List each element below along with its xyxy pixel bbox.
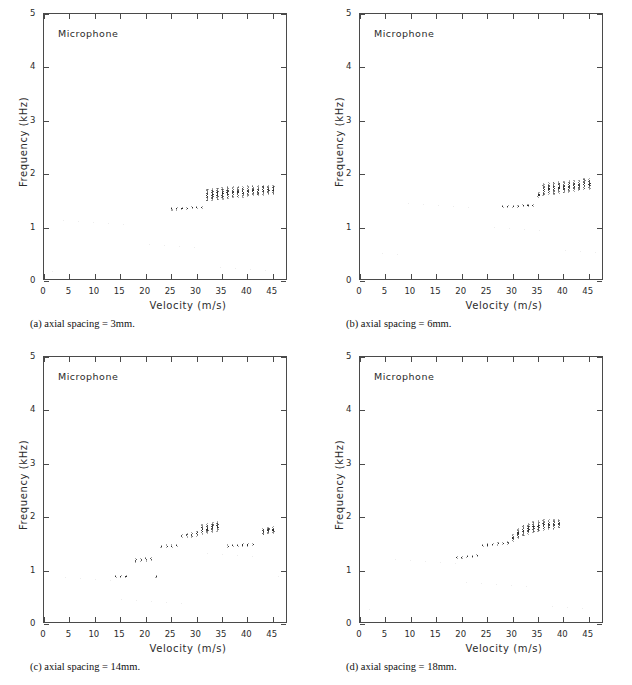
scan-speck xyxy=(166,602,167,603)
scan-speck xyxy=(194,247,195,248)
x-tick-b-45 xyxy=(589,14,590,19)
y-tick-b-0 xyxy=(597,281,602,282)
scan-speck xyxy=(494,227,495,228)
data-point xyxy=(528,534,529,535)
scan-speck xyxy=(151,601,152,602)
x-tick-label-a-20: 20 xyxy=(139,286,150,296)
data-point xyxy=(172,547,173,548)
y-tick-label-d-4: 4 xyxy=(346,404,351,414)
plot-area-c xyxy=(44,357,286,622)
x-tick-a-20 xyxy=(146,274,147,279)
panel-a: 051015202530354045012345Velocity (m/s)Fr… xyxy=(0,0,316,342)
x-tick-c-40 xyxy=(247,357,248,362)
x-tick-d-30 xyxy=(513,617,514,622)
data-point xyxy=(187,536,188,537)
data-point xyxy=(207,533,208,534)
y-tick-b-3 xyxy=(597,121,602,122)
x-tick-d-15 xyxy=(436,617,437,622)
scan-speck xyxy=(408,203,409,204)
x-tick-a-35 xyxy=(222,274,223,279)
figure-panel-grid: 051015202530354045012345Velocity (m/s)Fr… xyxy=(0,0,632,685)
x-tick-c-20 xyxy=(146,357,147,362)
x-tick-label-d-35: 35 xyxy=(531,629,542,639)
y-tick-label-d-0: 0 xyxy=(346,618,351,628)
y-tick-label-a-0: 0 xyxy=(30,275,35,285)
data-point xyxy=(533,206,534,207)
data-point xyxy=(222,199,223,200)
scan-speck xyxy=(181,603,182,604)
data-point xyxy=(513,541,514,542)
x-tick-label-d-25: 25 xyxy=(481,629,492,639)
x-tick-b-10 xyxy=(411,274,412,279)
x-tick-label-c-35: 35 xyxy=(215,629,226,639)
data-point xyxy=(120,577,121,578)
data-point xyxy=(182,537,183,538)
data-point xyxy=(247,196,248,197)
x-tick-label-c-40: 40 xyxy=(241,629,252,639)
x-tick-label-c-10: 10 xyxy=(88,629,99,639)
y-tick-a-1 xyxy=(44,228,49,229)
scan-speck xyxy=(80,578,81,579)
x-tick-label-a-25: 25 xyxy=(165,286,176,296)
scan-speck xyxy=(565,250,566,251)
data-point xyxy=(217,199,218,200)
y-tick-a-3 xyxy=(281,121,286,122)
x-tick-label-b-35: 35 xyxy=(531,286,542,296)
x-tick-d-5 xyxy=(385,357,386,362)
series-label-d: Microphone xyxy=(374,371,434,382)
y-tick-c-3 xyxy=(44,464,49,465)
plot-area-b xyxy=(360,14,602,279)
scan-speck xyxy=(526,586,527,587)
data-point xyxy=(497,544,498,545)
x-tick-label-a-15: 15 xyxy=(114,286,125,296)
data-point xyxy=(116,577,117,578)
scan-speck xyxy=(207,553,208,554)
y-tick-b-4 xyxy=(597,67,602,68)
y-tick-a-2 xyxy=(281,174,286,175)
scan-speck xyxy=(179,246,180,247)
data-point xyxy=(472,557,473,558)
plot-area-d xyxy=(360,357,602,622)
data-point xyxy=(543,530,544,531)
data-point xyxy=(507,544,508,545)
series-label-a: Microphone xyxy=(58,28,118,39)
x-tick-c-40 xyxy=(247,617,248,622)
data-point xyxy=(228,198,229,199)
x-tick-label-d-30: 30 xyxy=(506,629,517,639)
plot-area-a xyxy=(44,14,286,279)
scan-speck xyxy=(95,579,96,580)
y-tick-a-0 xyxy=(44,281,49,282)
data-point xyxy=(273,533,274,534)
scan-speck xyxy=(65,577,66,578)
data-point xyxy=(263,194,264,195)
data-point xyxy=(273,193,274,194)
x-tick-a-35 xyxy=(222,14,223,19)
x-tick-d-5 xyxy=(385,617,386,622)
scan-speck xyxy=(123,224,124,225)
x-tick-label-d-40: 40 xyxy=(557,629,568,639)
scan-speck xyxy=(110,580,111,581)
scan-speck xyxy=(149,244,150,245)
x-tick-label-a-40: 40 xyxy=(241,286,252,296)
x-tick-label-b-40: 40 xyxy=(557,286,568,296)
y-tick-a-4 xyxy=(44,67,49,68)
data-point xyxy=(553,193,554,194)
data-point xyxy=(242,197,243,198)
data-point xyxy=(155,577,156,578)
panel-c: 051015202530354045012345Velocity (m/s)Fr… xyxy=(0,343,316,685)
y-tick-label-a-5: 5 xyxy=(30,8,35,18)
y-axis-title-c: Frequency (kHz) xyxy=(18,439,29,529)
scan-speck xyxy=(466,582,467,583)
x-tick-a-5 xyxy=(69,274,70,279)
x-tick-a-45 xyxy=(273,274,274,279)
x-tick-b-35 xyxy=(538,274,539,279)
y-tick-d-1 xyxy=(597,571,602,572)
y-tick-label-b-1: 1 xyxy=(346,222,351,232)
data-point xyxy=(227,547,228,548)
data-point xyxy=(523,206,524,207)
y-axis-title-a: Frequency (kHz) xyxy=(18,96,29,186)
panel-b: 051015202530354045012345Velocity (m/s)Fr… xyxy=(316,0,632,342)
x-tick-a-30 xyxy=(197,14,198,19)
x-tick-label-c-15: 15 xyxy=(114,629,125,639)
data-point xyxy=(523,535,524,536)
